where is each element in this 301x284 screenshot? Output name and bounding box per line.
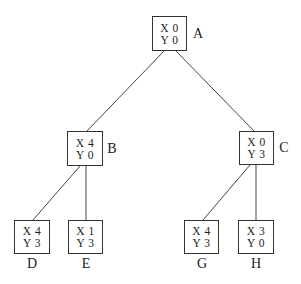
node-g-y: Y 3 — [192, 237, 210, 249]
node-g-x: X 4 — [192, 225, 210, 237]
node-h: X 3 Y 0 — [238, 220, 274, 254]
label-h: H — [251, 257, 261, 271]
node-a-x: X 0 — [160, 22, 178, 34]
label-b: B — [107, 142, 116, 156]
node-d-x: X 4 — [23, 225, 41, 237]
node-g: X 4 Y 3 — [184, 220, 219, 254]
node-e: X 1 Y 3 — [68, 220, 103, 254]
node-a-y: Y 0 — [160, 34, 178, 46]
edge-b-d — [33, 166, 80, 220]
node-e-y: Y 3 — [76, 237, 94, 249]
node-b: X 4 Y 0 — [67, 131, 103, 166]
label-d: D — [27, 257, 37, 271]
edge-c-g — [203, 165, 250, 220]
node-a: X 0 Y 0 — [152, 16, 187, 51]
label-c: C — [279, 141, 288, 155]
label-a: A — [193, 27, 203, 41]
node-d-y: Y 3 — [23, 237, 41, 249]
node-c: X 0 Y 3 — [239, 131, 274, 165]
node-e-x: X 1 — [76, 225, 94, 237]
node-c-x: X 0 — [247, 136, 265, 148]
edge-a-c — [176, 51, 254, 131]
node-d: X 4 Y 3 — [14, 220, 50, 254]
node-h-x: X 3 — [247, 225, 265, 237]
node-c-y: Y 3 — [247, 148, 265, 160]
node-h-y: Y 0 — [247, 237, 265, 249]
node-b-y: Y 0 — [76, 149, 94, 161]
node-b-x: X 4 — [76, 137, 94, 149]
label-g: G — [197, 257, 207, 271]
label-e: E — [82, 257, 91, 271]
edge-a-b — [87, 51, 164, 131]
